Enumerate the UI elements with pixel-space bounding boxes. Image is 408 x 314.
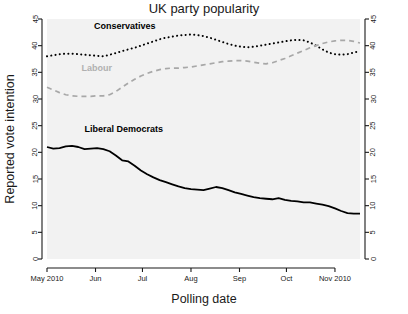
left-tick-label: 15 [31, 175, 40, 183]
x-tick-label: May 2010 [31, 274, 64, 283]
x-tick-label: Nov 2010 [319, 274, 351, 283]
x-axis-label: Polling date [171, 292, 236, 306]
right-tick-label: 5 [369, 230, 378, 234]
left-tick-label: 45 [31, 15, 40, 23]
series-label-liberal-democrats: Liberal Democrats [85, 124, 164, 134]
left-tick-label: 40 [31, 41, 40, 49]
left-tick-label: 25 [31, 121, 40, 129]
x-tick-label: Jun [89, 274, 101, 283]
right-tick-label: 10 [369, 201, 378, 209]
right-tick-label: 20 [369, 148, 378, 156]
x-tick-label: Oct [281, 274, 294, 283]
chart-canvas: UK party popularity Reported vote intent… [0, 0, 408, 314]
left-tick-label: 20 [31, 148, 40, 156]
series-label-conservatives: Conservatives [94, 21, 156, 31]
uk-party-popularity-chart: UK party popularity Reported vote intent… [0, 0, 408, 314]
left-tick-label: 30 [31, 95, 40, 103]
x-tick-label: Aug [184, 274, 197, 283]
left-tick-label: 35 [31, 68, 40, 76]
right-tick-label: 25 [369, 121, 378, 129]
right-tick-label: 0 [369, 257, 378, 261]
series-label-labour: Labour [81, 63, 112, 73]
right-tick-label: 45 [369, 15, 378, 23]
left-tick-label: 5 [31, 230, 40, 234]
x-tick-label: Jul [138, 274, 148, 283]
right-tick-label: 40 [369, 41, 378, 49]
x-tick-label: Sep [233, 274, 246, 283]
left-tick-label: 10 [31, 201, 40, 209]
right-tick-label: 15 [369, 175, 378, 183]
right-tick-label: 35 [369, 68, 378, 76]
y-axis-label: Reported vote intention [3, 74, 17, 203]
left-tick-label: 0 [31, 257, 40, 261]
chart-title: UK party popularity [149, 1, 260, 16]
right-tick-label: 30 [369, 95, 378, 103]
